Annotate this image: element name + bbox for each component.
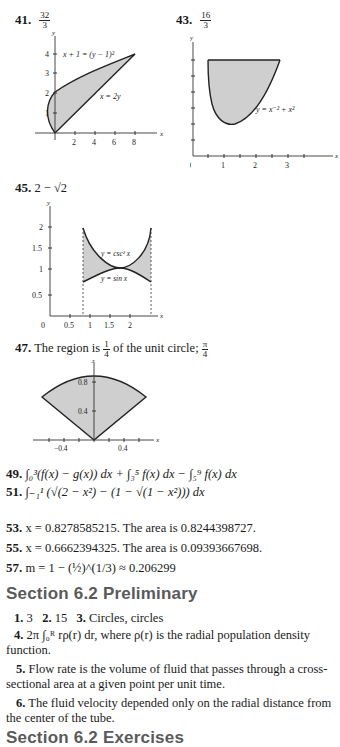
x-tick-label: 2 — [128, 321, 132, 330]
curve-label: y = sin x — [100, 274, 128, 283]
y-axis-label: y — [46, 200, 51, 207]
answer-fraction: 32 3 — [39, 11, 50, 30]
answer-text: The region is — [34, 341, 100, 355]
x-tick-label: 2 — [72, 138, 76, 147]
y-tick-label: 0.5 — [32, 291, 42, 300]
problem-number: 57. — [6, 560, 22, 575]
y-tick-label: 0.4 — [78, 407, 88, 416]
problem-57: 57. m = 1 − (½)^(1/3) ≈ 0.206299 — [6, 560, 176, 576]
prelim-item-6: 6. The fluid velocity depended only on t… — [6, 696, 336, 726]
problem-41-header: 41. 32 3 — [15, 10, 50, 30]
item-text: 15 — [55, 611, 68, 625]
item-text: Circles, circles — [89, 611, 163, 625]
answer-text: x = 0.8278585215. The area is 0.82443987… — [25, 521, 255, 535]
x-tick-label: 8 — [132, 138, 136, 147]
shaded-region — [47, 54, 135, 133]
denominator: 3 — [200, 21, 211, 30]
answer-text: ∫₋₁¹ (√(2 − x²) − (1 − √(1 − x²))) dx — [25, 485, 204, 499]
problem-47-header: 47. The region is 14 of the unit circle;… — [15, 340, 208, 359]
prelim-items-1-3: 1. 3 2. 15 3. Circles, circles — [14, 611, 340, 626]
problem-number: 45. — [15, 180, 31, 195]
graph-45: x y 0 0.5 1 1.5 2 0.5 1 1.5 2 y = csc² x… — [15, 200, 175, 340]
x-axis-label: x — [159, 312, 164, 320]
y-tick-label: 1 — [45, 109, 49, 118]
x-axis-label: x — [155, 436, 160, 444]
problem-number: 49. — [6, 466, 22, 481]
item-number: 3. — [77, 611, 86, 625]
answer-text: m = 1 − (½)^(1/3) ≈ 0.206299 — [25, 561, 175, 575]
item-number: 1. — [14, 611, 23, 625]
answer-text: 2 − √2 — [34, 181, 67, 195]
y-tick-label: 1.5 — [32, 244, 42, 253]
y-axis-label: y — [51, 30, 56, 37]
curve-label: x + 1 = (y − 1)² — [62, 50, 115, 59]
problem-number: 43. — [176, 12, 192, 27]
x-tick-label: 0.5 — [64, 321, 74, 330]
answer-text: of the unit circle; — [113, 341, 199, 355]
x-tick-label: 0 — [190, 161, 191, 170]
problem-number: 47. — [15, 340, 31, 355]
section-title-exercises: Section 6.2 Exercises — [6, 728, 184, 747]
prelim-item-4: 4. 2π ∫₀ᴿ rρ(r) dr, where ρ(r) is the ra… — [6, 628, 336, 658]
item-number: 6. — [16, 696, 25, 710]
item-number: 4. — [14, 628, 23, 642]
shaded-region — [208, 60, 280, 124]
x-tick-label: 3 — [285, 161, 289, 170]
y-ticks: 2 4 6 — [190, 56, 195, 140]
y-ticks: 0.5 1 1.5 2 — [32, 223, 52, 300]
x-tick-label: 6 — [112, 138, 116, 147]
graph-43: x y 0 1 2 3 2 4 6 y = x⁻² + x² — [190, 34, 340, 174]
problem-55: 55. x = 0.6662394325. The area is 0.0939… — [6, 540, 262, 556]
section-title-preliminary: Section 6.2 Preliminary — [6, 584, 198, 604]
answer-text: ∫₀³(f(x) − g(x)) dx + ∫₃⁵ f(x) dx − ∫₅⁹ … — [25, 467, 236, 481]
x-tick-label: −0.4 — [54, 444, 68, 453]
item-text: 2π ∫₀ᴿ rρ(r) dr, where ρ(r) is the radia… — [6, 628, 310, 657]
x-tick-label: 1 — [221, 161, 225, 170]
answer-fraction: 14 — [103, 340, 110, 359]
curve-label: x = 2y — [99, 92, 121, 101]
answer-fraction: π4 — [202, 340, 209, 359]
problem-number: 51. — [6, 484, 22, 499]
item-number: 2. — [42, 611, 51, 625]
y-tick-label: 0.8 — [78, 378, 88, 387]
answer-text: x = 0.6662394325. The area is 0.09393667… — [25, 541, 262, 555]
y-tick-label: 1 — [39, 265, 43, 274]
graph-47: x y −0.4 0.4 0.4 0.8 — [30, 360, 170, 460]
y-axis-label: y — [91, 360, 96, 364]
x-tick-label: 2 — [253, 161, 257, 170]
problem-49: 49. ∫₀³(f(x) − g(x)) dx + ∫₃⁵ f(x) dx − … — [6, 466, 237, 482]
x-tick-label: 4 — [92, 138, 96, 147]
y-tick-label: 2 — [45, 89, 49, 98]
item-text: The fluid velocity depended only on the … — [6, 696, 331, 725]
answer-fraction: 16 3 — [200, 11, 211, 30]
curve-label: y = x⁻² + x² — [255, 105, 295, 114]
x-tick-label: 1.5 — [104, 321, 114, 330]
x-tick-label: 0.4 — [118, 444, 128, 453]
y-tick-label: 2 — [39, 223, 43, 232]
item-text: 3 — [27, 611, 33, 625]
graph-41: x y 2 4 6 8 1 2 3 4 x + 1 = (y − 1)² x =… — [30, 30, 170, 150]
problem-51: 51. ∫₋₁¹ (√(2 − x²) − (1 − √(1 − x²))) d… — [6, 484, 205, 500]
problem-43-header: 43. 16 3 — [176, 10, 211, 30]
curve-label: y = csc² x — [100, 249, 131, 258]
prelim-item-5: 5. Flow rate is the volume of fluid that… — [6, 662, 336, 692]
problem-number: 55. — [6, 540, 22, 555]
problem-number: 53. — [6, 520, 22, 535]
denominator: 3 — [39, 21, 50, 30]
x-axis-label: x — [159, 130, 164, 138]
x-tick-label: 0 — [41, 321, 45, 330]
y-tick-label: 3 — [45, 69, 49, 78]
x-tick-label: 1 — [88, 321, 92, 330]
problem-53: 53. x = 0.8278585215. The area is 0.8244… — [6, 520, 256, 536]
problem-number: 41. — [15, 12, 31, 27]
y-tick-label: 4 — [45, 50, 49, 59]
x-axis-label: x — [334, 152, 339, 160]
problem-45-header: 45. 2 − √2 — [15, 180, 67, 196]
y-axis-label: y — [190, 34, 194, 42]
item-number: 5. — [16, 662, 25, 676]
item-text: Flow rate is the volume of fluid that pa… — [6, 662, 327, 691]
